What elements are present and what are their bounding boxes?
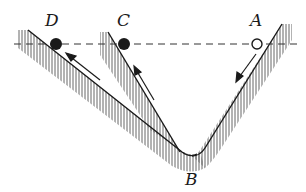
label-C: C [117,10,130,30]
label-B: B [184,169,198,189]
label-D: D [44,10,59,30]
ball-C [118,38,130,50]
ball-D [50,38,62,50]
track-diagram: D C A B [0,0,306,192]
ball-A [252,39,262,49]
label-A: A [248,10,262,30]
